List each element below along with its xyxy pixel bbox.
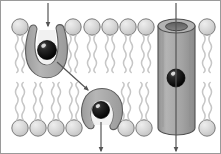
carrier-protein-open-outward (26, 25, 68, 78)
carrier-protein-open-inward (82, 89, 123, 130)
membrane-transport-figure (0, 0, 221, 154)
transported-molecule (93, 102, 110, 119)
transported-molecule (38, 41, 57, 60)
figure-canvas (0, 0, 221, 154)
